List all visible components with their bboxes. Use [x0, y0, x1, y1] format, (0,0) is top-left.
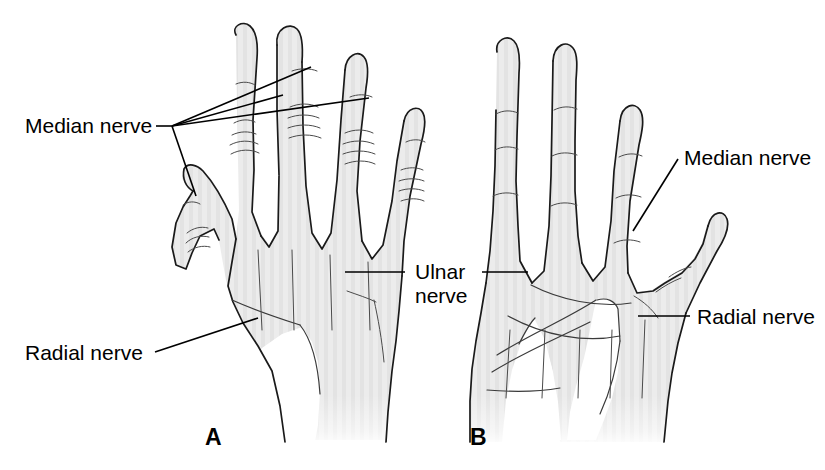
panel-a-dorsal-hand: [172, 24, 425, 447]
panel-b-palmar-hand: [460, 38, 728, 447]
leader-median-right: [633, 159, 678, 231]
leader-radial-left: [155, 318, 258, 352]
hand-b-wrist-fade: [460, 395, 680, 447]
label-median-nerve-left: Median nerve: [25, 114, 152, 137]
label-radial-nerve-right: Radial nerve: [697, 305, 815, 328]
label-ulnar-nerve-line1: Ulnar: [415, 260, 465, 283]
label-radial-nerve-left: Radial nerve: [25, 341, 143, 364]
leader-median-to-index: [172, 95, 283, 126]
panel-letter-a: A: [205, 424, 222, 450]
hand-a-wrist-fade: [240, 395, 400, 447]
label-median-nerve-right: Median nerve: [684, 146, 811, 169]
leader-median-to-thumb: [172, 126, 196, 196]
nerve-distribution-figure: Median nerve Radial nerve Ulnar nerve Me…: [0, 0, 825, 470]
label-ulnar-nerve-line2: nerve: [415, 284, 468, 307]
leader-median-to-ring: [172, 98, 369, 126]
panel-letter-b: B: [470, 424, 487, 450]
hand-illustration-canvas: Median nerve Radial nerve Ulnar nerve Me…: [0, 0, 825, 470]
